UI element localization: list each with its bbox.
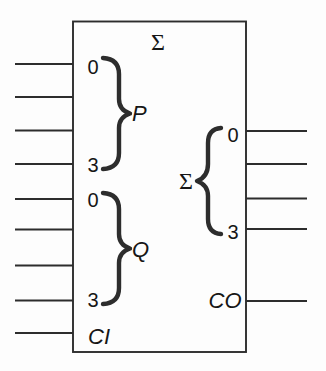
sum-output-group: Σ 0 3 — [179, 124, 239, 243]
q-group-brace-icon — [103, 193, 130, 304]
left-input-wires — [15, 64, 73, 333]
q-input-group: 0 3 Q — [87, 189, 149, 311]
component-function-symbol: Σ — [151, 29, 165, 55]
adder-diagram-svg: Σ 0 3 P 0 3 Q CI Σ 0 3 CO — [0, 0, 326, 371]
carry-in-label: CI — [88, 324, 110, 349]
q-first-index-label: 0 — [87, 189, 98, 211]
right-output-wires — [246, 131, 307, 301]
q-last-index-label: 3 — [87, 289, 98, 311]
sum-first-index-label: 0 — [227, 124, 238, 146]
sum-group-label: Σ — [179, 168, 193, 194]
sum-last-index-label: 3 — [227, 221, 238, 243]
adder-diagram: Σ 0 3 P 0 3 Q CI Σ 0 3 CO — [0, 0, 326, 371]
p-group-brace-icon — [103, 58, 130, 169]
sum-group-brace-icon — [197, 128, 221, 234]
p-group-label: P — [132, 101, 147, 126]
p-input-group: 0 3 P — [87, 56, 147, 176]
q-group-label: Q — [132, 237, 149, 262]
p-last-index-label: 3 — [87, 154, 98, 176]
carry-out-label: CO — [209, 288, 242, 313]
p-first-index-label: 0 — [87, 56, 98, 78]
